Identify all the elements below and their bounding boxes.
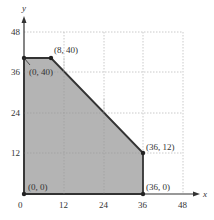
x-tick-0: 0: [18, 200, 23, 210]
y-tick-48: 48: [11, 27, 21, 37]
x-axis-arrow-icon: [193, 192, 200, 197]
y-tick-36: 36: [11, 67, 21, 77]
vertex-0-0: [22, 192, 26, 196]
vertex-36-12: [141, 151, 145, 155]
x-axis-label: x: [202, 189, 207, 199]
point-label-0-40: (0, 40): [29, 67, 53, 77]
point-label-8-40: (8, 40): [54, 45, 78, 55]
y-axis-label: y: [21, 3, 26, 13]
feasible-region-chart: y x 0 12 24 36 48 12 24 36 48 (0, 0) (0,…: [0, 0, 214, 220]
point-label-0-0: (0, 0): [28, 182, 48, 192]
y-tick-24: 24: [11, 108, 21, 118]
point-label-36-0: (36, 0): [146, 182, 170, 192]
point-label-36-12: (36, 12): [146, 142, 175, 152]
vertex-36-0: [141, 192, 145, 196]
x-tick-48: 48: [178, 200, 188, 210]
x-tick-24: 24: [99, 200, 109, 210]
y-tick-12: 12: [11, 148, 20, 158]
x-tick-12: 12: [59, 200, 68, 210]
vertex-8-40: [49, 56, 53, 60]
y-axis-arrow-icon: [22, 16, 27, 23]
feasible-region: [24, 58, 143, 194]
x-tick-36: 36: [138, 200, 148, 210]
